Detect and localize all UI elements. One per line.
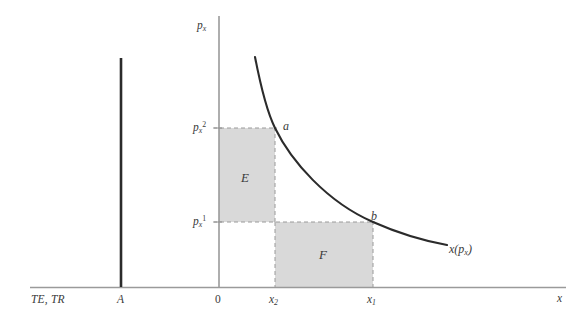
x-axis-label: x [557, 293, 562, 305]
y-tick-label-px1: px1 [193, 215, 206, 229]
point-label-b: b [371, 210, 377, 222]
x-tick-label-x2: x2 [269, 294, 278, 307]
region-label-F: F [319, 248, 327, 261]
point-label-a: a [283, 120, 289, 132]
x-tick-label-x1: x1 [367, 294, 376, 307]
demand-curve-label-close-paren: ) [468, 242, 472, 256]
region-label-E: E [241, 171, 249, 184]
y-tick-label-px2-superscript: 2 [202, 120, 206, 129]
y-axis-label: px [197, 20, 206, 33]
figure-canvas [0, 0, 585, 320]
demand-curve-figure: px x 0 TE, TR A px2 px1 x2 x1 a b E F x(… [0, 0, 585, 320]
y-axis-label-subscript: x [203, 24, 206, 33]
total-expenditure-revenue-label: TE, TR [31, 294, 65, 306]
origin-label: 0 [215, 294, 221, 306]
budget-line-label-A: A [117, 294, 124, 306]
demand-curve-label: x(px) [449, 243, 472, 257]
demand-curve-path [255, 57, 447, 245]
x-tick-label-x2-subscript: 2 [274, 298, 278, 307]
x-tick-label-x1-subscript: 1 [372, 298, 376, 307]
y-tick-label-px1-superscript: 1 [202, 214, 206, 223]
y-tick-label-px2: px2 [193, 121, 206, 135]
